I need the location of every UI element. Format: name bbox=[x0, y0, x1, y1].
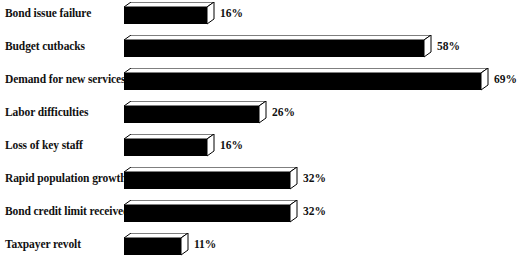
bar bbox=[124, 35, 431, 62]
category-label: Budget cutbacks bbox=[5, 33, 85, 60]
category-label: Labor difficulties bbox=[5, 99, 88, 126]
category-label: Demand for new services bbox=[5, 66, 125, 93]
bar bbox=[124, 68, 488, 95]
category-label: Bond credit limit received bbox=[5, 198, 129, 225]
bar-side-face bbox=[207, 2, 214, 26]
chart-row: Bond credit limit received32% bbox=[0, 198, 509, 231]
category-label: Bond issue failure bbox=[5, 0, 91, 27]
bar-front-face bbox=[124, 7, 207, 24]
bar-value-label: 58% bbox=[437, 37, 460, 56]
bar-value-label: 69% bbox=[494, 70, 517, 89]
bar-front-face bbox=[124, 139, 207, 156]
bar bbox=[124, 167, 297, 194]
bar-side-face bbox=[181, 233, 188, 257]
bar-side-face bbox=[290, 167, 297, 191]
bar-front-face bbox=[124, 238, 181, 255]
category-label: Loss of key staff bbox=[5, 132, 83, 159]
bar-side-face bbox=[424, 35, 431, 59]
chart-row: Loss of key staff16% bbox=[0, 132, 509, 165]
chart-row: Rapid population growth32% bbox=[0, 165, 509, 198]
bar-front-face bbox=[124, 40, 424, 57]
chart-row: Bond issue failure16% bbox=[0, 0, 509, 33]
bar-side-face bbox=[259, 101, 266, 125]
bar bbox=[124, 200, 297, 227]
category-label: Rapid population growth bbox=[5, 165, 126, 192]
chart-row: Budget cutbacks58% bbox=[0, 33, 509, 66]
bar-value-label: 16% bbox=[220, 4, 243, 23]
bar bbox=[124, 134, 214, 161]
category-label: Taxpayer revolt bbox=[5, 231, 81, 258]
bar-side-face bbox=[481, 68, 488, 92]
chart-row: Labor difficulties26% bbox=[0, 99, 509, 132]
bar bbox=[124, 101, 266, 128]
bar-value-label: 32% bbox=[303, 202, 326, 221]
bar-side-face bbox=[290, 200, 297, 224]
bar-front-face bbox=[124, 172, 290, 189]
bar-value-label: 32% bbox=[303, 169, 326, 188]
bar-front-face bbox=[124, 205, 290, 222]
bar-value-label: 11% bbox=[194, 235, 216, 254]
chart-row: Taxpayer revolt11% bbox=[0, 231, 509, 264]
chart-row: Demand for new services69% bbox=[0, 66, 509, 99]
bar-value-label: 26% bbox=[272, 103, 295, 122]
bar-front-face bbox=[124, 106, 259, 123]
bar bbox=[124, 233, 188, 260]
bar-front-face bbox=[124, 73, 481, 90]
bar-value-label: 16% bbox=[220, 136, 243, 155]
bar-side-face bbox=[207, 134, 214, 158]
bar bbox=[124, 2, 214, 29]
